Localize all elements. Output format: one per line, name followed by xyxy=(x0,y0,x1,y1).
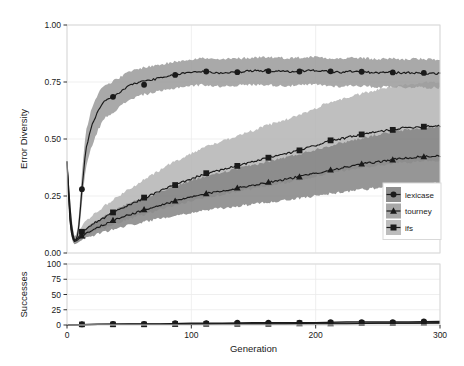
marker-ifs xyxy=(234,163,240,169)
x-tick-label: 0 xyxy=(65,330,70,340)
marker-ifs xyxy=(141,195,147,201)
legend-label-tourney: tourney xyxy=(405,207,432,216)
x-axis-title-generation: Generation xyxy=(230,343,277,354)
y-axis-title-error-diversity: Error Diversity xyxy=(18,109,29,169)
legend[interactable]: lexicasetourneyifs xyxy=(383,183,441,240)
marker-lexicase xyxy=(79,186,85,192)
marker-lexicase xyxy=(328,68,334,74)
y-axis-successes: 0255075100Successes xyxy=(18,259,67,330)
x-tick-label: 100 xyxy=(184,330,198,340)
marker-lexicase xyxy=(390,70,396,76)
marker-lexicase xyxy=(203,69,209,75)
y-tick-label: 0.50 xyxy=(44,134,61,144)
y-axis-title-successes: Successes xyxy=(18,271,29,317)
marker-lexicase xyxy=(234,69,240,75)
y-tick-label: 0.75 xyxy=(44,77,61,87)
y-tick-label: 100 xyxy=(47,259,61,269)
x-tick-label: 200 xyxy=(309,330,323,340)
legend-marker-square xyxy=(391,225,397,231)
y-tick-label: 0 xyxy=(56,320,61,330)
y-tick-label: 0.00 xyxy=(44,248,61,258)
marker-ifs xyxy=(172,182,178,188)
x-axis-generation: 0100200300Generation xyxy=(65,325,448,354)
marker-lexicase xyxy=(141,82,147,88)
marker-ifs xyxy=(110,210,116,216)
marker-ifs xyxy=(421,124,427,130)
marker-ifs xyxy=(328,137,334,143)
y-tick-label: 75 xyxy=(52,274,62,284)
successes-panel xyxy=(67,264,440,327)
x-tick-label: 300 xyxy=(433,330,447,340)
marker-ifs xyxy=(203,170,209,176)
chart-figure: 0.000.250.500.751.00Error Diversitylexic… xyxy=(0,0,464,366)
marker-lexicase xyxy=(110,94,116,100)
marker-ifs xyxy=(266,155,272,161)
y-tick-label: 0.25 xyxy=(44,191,61,201)
y-tick-label: 25 xyxy=(52,305,62,315)
marker-lexicase xyxy=(172,72,178,78)
marker-lexicase xyxy=(266,68,272,74)
y-axis-error-diversity: 0.000.250.500.751.00Error Diversity xyxy=(18,20,67,258)
y-tick-label: 50 xyxy=(52,290,62,300)
chart-svg: 0.000.250.500.751.00Error Diversitylexic… xyxy=(0,0,464,366)
legend-label-lexicase: lexicase xyxy=(405,191,434,200)
marker-lexicase xyxy=(297,69,303,75)
marker-ifs xyxy=(297,148,303,154)
legend-label-ifs: ifs xyxy=(405,224,413,233)
marker-ifs xyxy=(390,127,396,133)
marker-lexicase xyxy=(421,70,427,76)
marker-lexicase xyxy=(359,69,365,75)
marker-ifs xyxy=(359,132,365,138)
legend-marker-circle xyxy=(391,192,397,198)
y-tick-label: 1.00 xyxy=(44,20,61,30)
